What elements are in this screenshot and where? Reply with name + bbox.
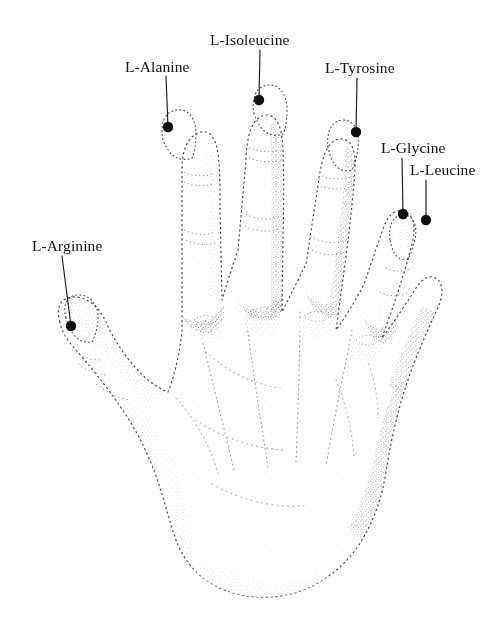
label-l-tyrosine: L-Tyrosine <box>325 59 395 77</box>
label-l-leucine: L-Leucine <box>410 161 475 179</box>
label-l-alanine: L-Alanine <box>125 58 190 76</box>
label-l-isoleucine: L-Isoleucine <box>210 31 290 49</box>
amino-acid-hand-figure: L-Isoleucine L-Alanine L-Tyrosine L-Glyc… <box>0 0 504 622</box>
hand-illustration <box>0 0 504 622</box>
label-l-glycine: L-Glycine <box>381 139 446 157</box>
label-l-arginine: L-Arginine <box>32 237 102 255</box>
